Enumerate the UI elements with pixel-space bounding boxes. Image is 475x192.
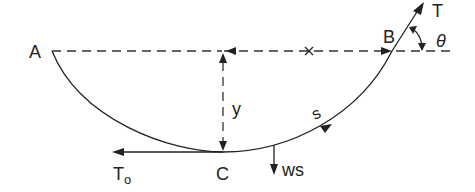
label-t: T bbox=[432, 1, 443, 21]
label-b: B bbox=[383, 27, 395, 47]
label-theta: θ bbox=[436, 31, 446, 51]
label-s: s bbox=[309, 104, 323, 123]
label-ws: ws bbox=[281, 160, 304, 180]
catenary-curve bbox=[52, 4, 422, 152]
label-y: y bbox=[232, 99, 241, 119]
vertical-dashed-line bbox=[219, 53, 227, 151]
ws-arrow-icon bbox=[270, 164, 278, 175]
label-c: C bbox=[216, 164, 229, 184]
t0-arrow-icon bbox=[112, 148, 124, 156]
arrow-left-icon bbox=[226, 47, 236, 55]
catenary-diagram: A B C T θ y s To ws bbox=[0, 0, 475, 192]
tension-arrow-icon bbox=[413, 2, 424, 15]
theta-angle-arc bbox=[409, 26, 426, 51]
label-t0: To bbox=[113, 164, 131, 187]
label-a: A bbox=[29, 42, 41, 62]
